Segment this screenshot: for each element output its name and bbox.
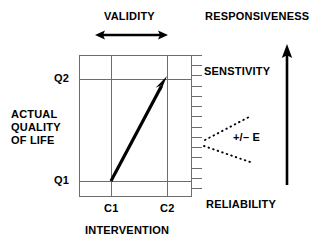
y-tick-label-q1: Q1 bbox=[54, 174, 69, 187]
scale-tick bbox=[192, 116, 202, 117]
x-axis-title: INTERVENTION bbox=[85, 224, 169, 237]
gridline-q2 bbox=[79, 79, 192, 80]
sensitivity-label: SENSTIVITY bbox=[204, 65, 270, 78]
x-tick-label-c2: C2 bbox=[160, 202, 174, 215]
gridline-c2 bbox=[167, 55, 168, 197]
validity-label: VALIDITY bbox=[104, 10, 155, 23]
scale-tick bbox=[192, 137, 202, 138]
gridline-c1 bbox=[111, 55, 112, 197]
scale-tick bbox=[192, 65, 202, 66]
scale-tick bbox=[192, 75, 202, 76]
error-margin-label: +/– E bbox=[233, 131, 260, 144]
scale-tick bbox=[192, 106, 202, 107]
diagram-canvas: VALIDITY RESPONSIVENESS SENSTIVITY RELIA… bbox=[0, 0, 336, 248]
reliability-label: RELIABILITY bbox=[206, 198, 276, 211]
scale-tick bbox=[192, 96, 202, 97]
plot-frame bbox=[79, 55, 192, 197]
validity-double-arrow bbox=[95, 31, 168, 40]
y-axis-title: ACTUAL QUALITY OF LIFE bbox=[11, 108, 61, 147]
gridline-q1 bbox=[79, 181, 192, 182]
scale-tick bbox=[192, 157, 202, 158]
responsiveness-arrow bbox=[282, 44, 292, 185]
scale-tick bbox=[192, 86, 202, 87]
sensitivity-tick-scale bbox=[192, 55, 202, 197]
responsiveness-label: RESPONSIVENESS bbox=[205, 10, 309, 23]
scale-tick bbox=[192, 147, 202, 148]
scale-tick bbox=[192, 178, 202, 179]
x-tick-label-c1: C1 bbox=[104, 202, 118, 215]
scale-tick bbox=[192, 55, 202, 56]
scale-tick bbox=[192, 168, 202, 169]
scale-tick bbox=[192, 127, 202, 128]
scale-tick bbox=[192, 188, 202, 189]
y-tick-label-q2: Q2 bbox=[54, 72, 69, 85]
